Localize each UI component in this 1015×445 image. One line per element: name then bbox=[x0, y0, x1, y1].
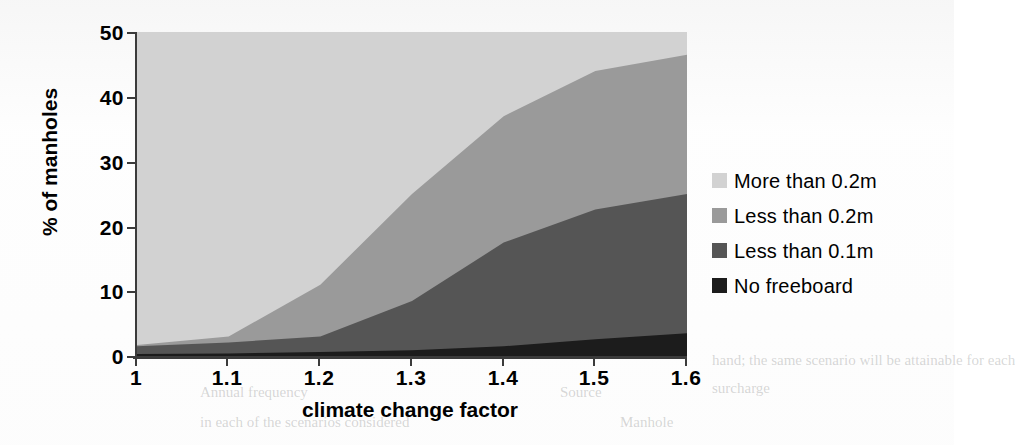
x-tick-label-1.6: 1.6 bbox=[651, 366, 721, 390]
plot-area bbox=[135, 32, 687, 356]
legend-item-less-than-0.2m[interactable]: Less than 0.2m bbox=[712, 198, 942, 233]
area-series-svg bbox=[137, 32, 687, 356]
y-tick-label-10: 10 bbox=[78, 281, 124, 302]
x-tick-mark-1.2 bbox=[318, 359, 320, 366]
x-tick-mark-1.4 bbox=[502, 359, 504, 366]
y-tick-mark-40 bbox=[127, 97, 135, 99]
legend-item-more-than-0.2m[interactable]: More than 0.2m bbox=[712, 163, 942, 198]
x-tick-mark-1 bbox=[135, 359, 137, 366]
y-tick-mark-50 bbox=[127, 32, 135, 34]
legend: More than 0.2m Less than 0.2m Less than … bbox=[712, 163, 942, 303]
x-tick-label-1: 1 bbox=[101, 366, 171, 390]
legend-swatch-icon bbox=[712, 243, 727, 258]
y-tick-label-40: 40 bbox=[78, 87, 124, 108]
legend-item-less-than-0.1m[interactable]: Less than 0.1m bbox=[712, 233, 942, 268]
x-tick-label-1.3: 1.3 bbox=[376, 366, 446, 390]
x-axis-title: climate change factor bbox=[135, 398, 685, 422]
y-tick-label-30: 30 bbox=[78, 152, 124, 173]
legend-swatch-icon bbox=[712, 173, 727, 188]
x-tick-label-1.4: 1.4 bbox=[468, 366, 538, 390]
legend-item-no-freeboard[interactable]: No freeboard bbox=[712, 268, 942, 303]
legend-swatch-icon bbox=[712, 208, 727, 223]
y-tick-label-50: 50 bbox=[78, 22, 124, 43]
y-tick-mark-10 bbox=[127, 291, 135, 293]
legend-label: No freeboard bbox=[734, 276, 853, 296]
x-tick-mark-1.3 bbox=[410, 359, 412, 366]
x-tick-mark-1.5 bbox=[593, 359, 595, 366]
x-tick-mark-1.6 bbox=[685, 359, 687, 366]
x-tick-label-1.1: 1.1 bbox=[192, 366, 262, 390]
y-axis-title: % of manholes bbox=[38, 52, 62, 272]
x-tick-mark-1.1 bbox=[226, 359, 228, 366]
y-tick-mark-30 bbox=[127, 162, 135, 164]
legend-label: Less than 0.1m bbox=[734, 241, 874, 261]
legend-label: More than 0.2m bbox=[734, 171, 877, 191]
legend-swatch-icon bbox=[712, 278, 727, 293]
legend-label: Less than 0.2m bbox=[734, 206, 874, 226]
x-tick-label-1.2: 1.2 bbox=[284, 366, 354, 390]
y-tick-mark-20 bbox=[127, 227, 135, 229]
x-tick-label-1.5: 1.5 bbox=[559, 366, 629, 390]
y-tick-label-0: 0 bbox=[78, 346, 124, 367]
y-tick-label-20: 20 bbox=[78, 217, 124, 238]
